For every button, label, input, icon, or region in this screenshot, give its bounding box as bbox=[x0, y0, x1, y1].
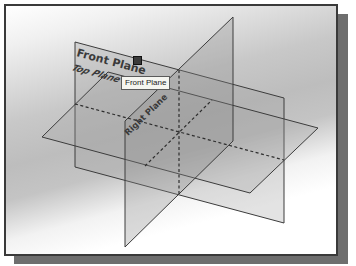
3d-graphics-viewport[interactable]: Front Plane Top Plane Right Plane Front … bbox=[4, 4, 338, 256]
graphics-window: Front Plane Top Plane Right Plane Front … bbox=[0, 0, 356, 266]
datum-planes-scene: Front Plane Top Plane Right Plane bbox=[4, 4, 338, 256]
hover-tooltip: Front Plane bbox=[121, 76, 170, 90]
square-handle-icon[interactable] bbox=[133, 56, 142, 65]
